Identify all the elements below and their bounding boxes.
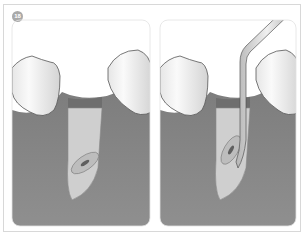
tooth-left xyxy=(160,56,208,116)
tooth-left xyxy=(12,56,60,116)
illustration xyxy=(0,0,304,235)
panel-right xyxy=(160,2,300,226)
panel-left xyxy=(12,50,152,226)
